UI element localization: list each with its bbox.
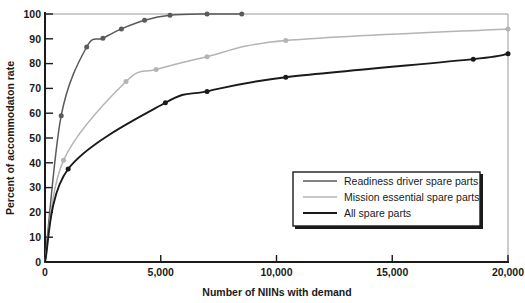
y-axis-tick-label: 0: [35, 256, 41, 268]
series-marker: [59, 113, 64, 118]
series-marker: [66, 167, 71, 172]
x-axis-tick-label: 20,000: [492, 266, 524, 278]
chart-legend: Readiness driver spare partsMission esse…: [293, 172, 483, 229]
x-axis-tick-label: 10,000: [260, 266, 292, 278]
legend-label: Readiness driver spare parts: [344, 175, 478, 187]
series-marker: [506, 26, 511, 31]
y-axis-tick-label: 100: [23, 8, 41, 20]
series-marker: [506, 51, 511, 56]
y-axis-tick-label: 10: [29, 231, 41, 243]
legend-box-shadow-right: [480, 174, 483, 229]
series-marker: [119, 26, 124, 31]
chart-container: 0102030405060708090100 05,00010,00015,00…: [0, 0, 525, 303]
legend-box-shadow-bottom: [295, 226, 482, 229]
legend-label: All spare parts: [344, 207, 411, 219]
series-marker: [84, 44, 89, 49]
legend-label: Mission essential spare parts: [344, 191, 479, 203]
y-axis-tick-label: 50: [29, 132, 41, 144]
y-axis-tick-label: 90: [29, 33, 41, 45]
x-axis-title: Number of NIINs with demand: [202, 286, 351, 298]
x-axis-tick-label: 15,000: [376, 266, 408, 278]
y-axis-tick-label: 60: [29, 107, 41, 119]
series-marker: [163, 100, 168, 105]
series-marker: [124, 79, 129, 84]
y-axis-title: Percent of accommodaton rate: [4, 61, 16, 215]
line-chart: 0102030405060708090100 05,00010,00015,00…: [0, 0, 525, 303]
series-marker: [283, 38, 288, 43]
x-axis: 05,00010,00015,00020,000: [42, 255, 524, 278]
series-marker: [61, 158, 66, 163]
series-marker: [100, 36, 105, 41]
series-marker: [205, 54, 210, 59]
series-marker: [283, 75, 288, 80]
y-axis-tick-label: 40: [29, 157, 41, 169]
series-marker: [168, 13, 173, 18]
data-series: [45, 12, 244, 263]
x-axis-tick-label: 0: [42, 266, 48, 278]
y-axis-tick-labels: 0102030405060708090100: [23, 8, 41, 268]
series-marker: [471, 57, 476, 62]
x-axis-tick-labels: 05,00010,00015,00020,000: [42, 266, 524, 278]
series-marker: [205, 89, 210, 94]
x-axis-tick-label: 5,000: [148, 266, 174, 278]
y-axis-tick-label: 80: [29, 57, 41, 69]
y-axis-tick-label: 70: [29, 82, 41, 94]
series-marker: [239, 12, 244, 17]
series-line: [45, 54, 508, 262]
y-axis-tick-label: 20: [29, 206, 41, 218]
y-axis-tick-label: 30: [29, 181, 41, 193]
series-marker: [205, 12, 210, 17]
series-line: [45, 14, 242, 262]
data-series: [45, 51, 511, 262]
series-marker: [142, 18, 147, 23]
series-marker: [154, 67, 159, 72]
